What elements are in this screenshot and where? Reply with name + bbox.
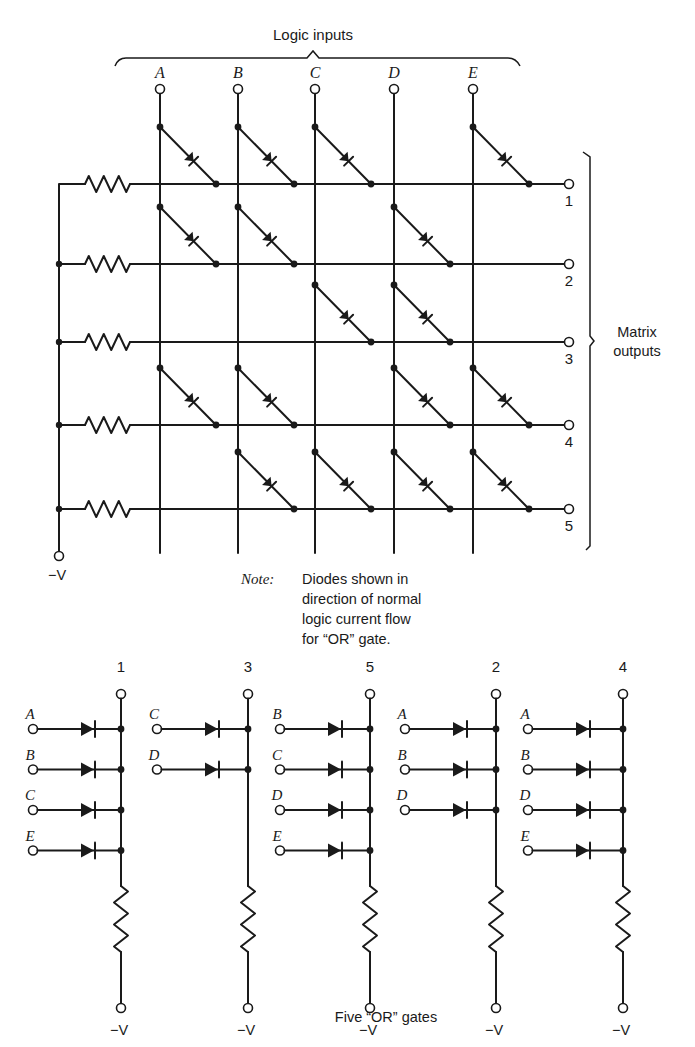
- diode-lead: [473, 368, 529, 425]
- input-column-d: D: [387, 64, 400, 553]
- junction-dot: [291, 261, 298, 268]
- junction-dot: [157, 365, 164, 372]
- diode-lead: [315, 452, 371, 509]
- diode-lead: [238, 452, 294, 509]
- input-label: D: [387, 64, 400, 81]
- diode-anode-triangle: [576, 803, 589, 817]
- junction-dot: [447, 261, 454, 268]
- diode-anode-triangle: [328, 722, 341, 736]
- gate-input-terminal: [276, 806, 285, 815]
- diode-lead: [315, 285, 371, 342]
- junction-dot: [312, 449, 319, 456]
- gate-input-b: B: [397, 747, 499, 778]
- gate-output-label: 5: [366, 658, 374, 675]
- gate-output-label: 4: [619, 658, 627, 675]
- junction-dot: [118, 847, 125, 854]
- junction-dot: [118, 726, 125, 733]
- gate-input-label: C: [25, 787, 36, 803]
- gate-input-e: E: [519, 828, 626, 859]
- gate-supply-terminal: [244, 1004, 253, 1013]
- gate-output-label: 3: [244, 658, 252, 675]
- junction-dot: [620, 766, 627, 773]
- input-terminal: [156, 85, 165, 94]
- junction-dot: [391, 365, 398, 372]
- gate-supply-label: −V: [110, 1022, 128, 1038]
- diode-c-1: [312, 124, 375, 188]
- junction-dot: [118, 766, 125, 773]
- diode-b-1: [235, 124, 298, 188]
- gate-input-label: E: [271, 828, 281, 844]
- gate-supply-terminal: [366, 1004, 375, 1013]
- junction-dot: [368, 181, 375, 188]
- output-label: 4: [565, 433, 573, 450]
- gate-output-label: 2: [492, 658, 500, 675]
- diode-matrix-or-diagram: Logic inputs Matrix outputs −V Note: Dio…: [0, 0, 695, 1047]
- output-terminal: [565, 338, 574, 347]
- diode-b-4: [235, 365, 298, 429]
- diode-lead: [238, 127, 294, 184]
- diode-c-3: [312, 282, 375, 346]
- gate-input-terminal: [276, 725, 285, 734]
- diode-b-2: [235, 204, 298, 268]
- diode-anode-triangle: [576, 763, 589, 777]
- gate-input-terminal: [524, 806, 533, 815]
- diode-lead: [473, 127, 529, 184]
- diode-lead: [160, 368, 216, 425]
- gate-resistor: [616, 886, 630, 952]
- diode-a-2: [157, 204, 220, 268]
- gate-input-label: C: [272, 747, 283, 763]
- gate-input-label: A: [519, 706, 530, 722]
- output-label: 3: [565, 350, 573, 367]
- junction-dot: [245, 726, 252, 733]
- junction-dot: [312, 282, 319, 289]
- gate-input-label: B: [397, 747, 406, 763]
- gate-resistor: [241, 886, 255, 952]
- diode-lead: [160, 127, 216, 184]
- junction-dot: [470, 365, 477, 372]
- input-terminal: [469, 85, 478, 94]
- gate-input-c: C: [25, 787, 124, 818]
- diode-d-2: [391, 204, 454, 268]
- junction-dot: [526, 181, 533, 188]
- diode-b-5: [235, 449, 298, 513]
- junction-dot: [391, 449, 398, 456]
- diode-anode-triangle: [453, 722, 466, 736]
- input-column-b: B: [233, 64, 243, 553]
- junction-dot: [391, 204, 398, 211]
- diode-lead: [315, 127, 371, 184]
- junction-dot: [118, 807, 125, 814]
- matrix-outputs-bracket: [583, 152, 594, 550]
- gate-input-terminal: [29, 765, 38, 774]
- output-terminal: [565, 180, 574, 189]
- junction-dot: [526, 422, 533, 429]
- note-line-2: direction of normal: [302, 591, 421, 607]
- gate-input-a: A: [396, 706, 499, 737]
- gate-input-label: E: [519, 828, 529, 844]
- diode-lead: [160, 207, 216, 264]
- diode-anode-triangle: [328, 844, 341, 858]
- junction-dot: [447, 422, 454, 429]
- diode-e-1: [470, 124, 533, 188]
- junction-dot: [367, 847, 374, 854]
- diode-d-5: [391, 449, 454, 513]
- junction-dot: [526, 506, 533, 513]
- gate-input-d: D: [396, 787, 500, 818]
- diode-anode-triangle: [576, 722, 589, 736]
- gate-input-terminal: [524, 846, 533, 855]
- junction-dot: [213, 181, 220, 188]
- gate-supply-terminal: [492, 1004, 501, 1013]
- junction-dot: [157, 204, 164, 211]
- diode-anode-triangle: [328, 803, 341, 817]
- gate-input-label: B: [25, 747, 34, 763]
- diode-matrix: ABCDE12345: [55, 64, 574, 561]
- junction-dot: [493, 807, 500, 814]
- junction-dot: [367, 726, 374, 733]
- junction-dot: [368, 339, 375, 346]
- gate-supply-terminal: [619, 1004, 628, 1013]
- or-gate-5: 5−VBCDE: [271, 658, 378, 1038]
- gate-input-c: C: [149, 706, 251, 737]
- junction-dot: [620, 726, 627, 733]
- gate-supply-label: −V: [485, 1022, 503, 1038]
- pull-down-resistor: [85, 417, 130, 433]
- gate-input-terminal: [29, 806, 38, 815]
